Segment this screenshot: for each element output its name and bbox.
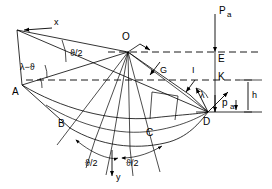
load-top-subscript: a [227,10,232,19]
theta-half-angle-arc-upper [62,40,66,62]
load-bottom-subscript: a [230,102,235,111]
y-axis-label: y [116,172,121,182]
point-label-c: C [146,127,153,138]
lambda-minus-theta-label: λ−ϑ [20,62,35,72]
load-bottom-label: p [222,97,228,108]
lambda-label: λ [200,90,205,100]
theta-half-bottom-left-label: ϑ/2 [85,158,97,168]
point-label-k: K [218,71,225,82]
arc-upper-slip-surface [22,85,208,119]
line-o-short-upper [128,44,140,52]
fan-ray-3-extension [106,146,112,175]
point-label-b: B [58,118,65,129]
geometry-diagram: A B C D O E K x y G I h P a p a ϑ/2 λ−ϑ … [0,0,272,189]
segment-g-label: G [160,65,167,75]
segment-i-label: I [192,65,195,75]
theta-half-upper-label: ϑ/2 [70,48,82,58]
arrow-o-upper-right [140,44,150,50]
fan-ray-4 [128,52,130,148]
arc-lower-slip-surface [70,112,208,146]
point-label-o: O [122,31,130,42]
line-wedge-top-to-d [190,95,208,112]
inner-panel-left-edge [150,92,152,119]
lambda-dimension-arrow [186,80,195,92]
angle-arc-at-a [40,78,42,88]
fan-ray-1-extension [57,128,70,145]
point-label-a: A [12,86,19,97]
lambda-minus-theta-angle-arc [45,65,47,78]
height-h-label: h [252,90,257,100]
line-apex-to-d [17,30,208,112]
point-label-e: E [218,53,225,64]
point-label-d: D [203,116,210,127]
theta-half-bottom-right-label: ϑ/2 [126,158,138,168]
fan-ray-5-extension [152,143,160,172]
x-axis-arrow [24,28,52,30]
load-top-label: P [219,5,226,16]
fan-ray-1 [70,52,128,128]
diagram-canvas: A B C D O E K x y G I h P a p a ϑ/2 λ−ϑ … [0,0,272,189]
x-axis-label: x [54,17,59,27]
line-apex-to-a [17,30,22,85]
line-o-to-d-inner [128,52,208,112]
